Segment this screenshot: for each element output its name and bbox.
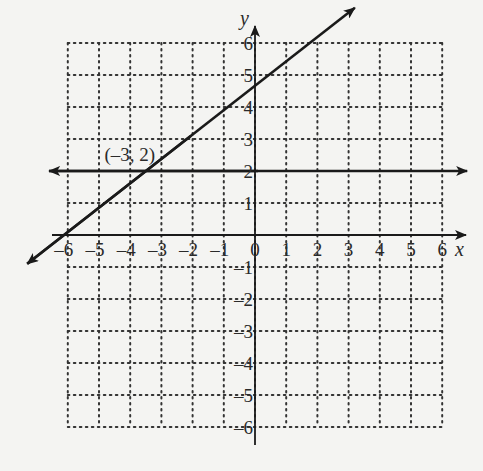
y-tick-label: 2 [244, 161, 254, 182]
x-tick-label: –2 [178, 239, 198, 260]
axes [52, 26, 466, 445]
x-tick-label: –1 [209, 239, 229, 260]
y-tick-label: –5 [233, 385, 253, 406]
y-tick-label: 6 [244, 33, 254, 54]
x-tick-label: –4 [116, 239, 137, 260]
coordinate-plane: –6–5–4–3–2–10123456–6–5–4–3–2–1123456 x … [0, 0, 483, 471]
x-tick-label: –6 [53, 239, 73, 260]
x-tick-label: 6 [437, 239, 447, 260]
y-tick-label: –1 [233, 257, 253, 278]
y-tick-label: 1 [244, 193, 254, 214]
y-tick-label: –2 [233, 289, 253, 310]
y-tick-label: –6 [233, 417, 253, 438]
y-tick-label: 4 [244, 97, 254, 118]
x-tick-label: 1 [281, 239, 291, 260]
x-tick-label: 5 [406, 239, 416, 260]
x-tick-label: –3 [147, 239, 167, 260]
y-tick-label: 5 [244, 65, 254, 86]
x-tick-label: 3 [344, 239, 354, 260]
x-tick-label: 4 [375, 239, 385, 260]
x-axis-label: x [454, 238, 464, 260]
y-tick-label: –4 [233, 353, 254, 374]
x-tick-label: –5 [85, 239, 105, 260]
point-label: (–3, 2) [104, 144, 155, 166]
y-tick-label: 3 [244, 129, 254, 150]
y-tick-label: –3 [233, 321, 253, 342]
x-tick-label: 2 [313, 239, 323, 260]
y-axis-label: y [238, 7, 249, 30]
